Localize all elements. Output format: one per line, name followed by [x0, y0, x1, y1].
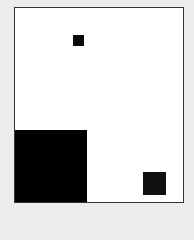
small-square-bottom-right — [143, 172, 166, 195]
small-square-top — [73, 35, 84, 46]
large-block-bottom-left — [15, 130, 87, 202]
